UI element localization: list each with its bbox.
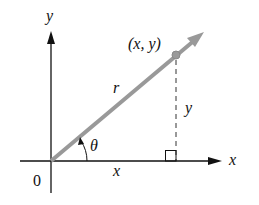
origin-label: 0 (33, 173, 41, 189)
right-angle-marker (166, 151, 177, 162)
x-axis-label: x (229, 152, 236, 168)
angle-arc (78, 137, 87, 161)
y-axis-arrow-icon (47, 31, 55, 44)
polar-coordinate-diagram: y x 0 (x, y) r y x θ (0, 0, 259, 205)
angle-label: θ (90, 138, 98, 154)
horizontal-component-label: x (113, 163, 120, 179)
x-axis (20, 157, 222, 165)
x-axis-arrow-icon (208, 157, 222, 165)
y-axis-label: y (46, 8, 53, 24)
radius-label: r (113, 80, 119, 96)
y-axis (47, 31, 55, 193)
vertical-component-label: y (185, 100, 192, 116)
point-marker (172, 51, 180, 59)
point-label: (x, y) (128, 36, 161, 52)
